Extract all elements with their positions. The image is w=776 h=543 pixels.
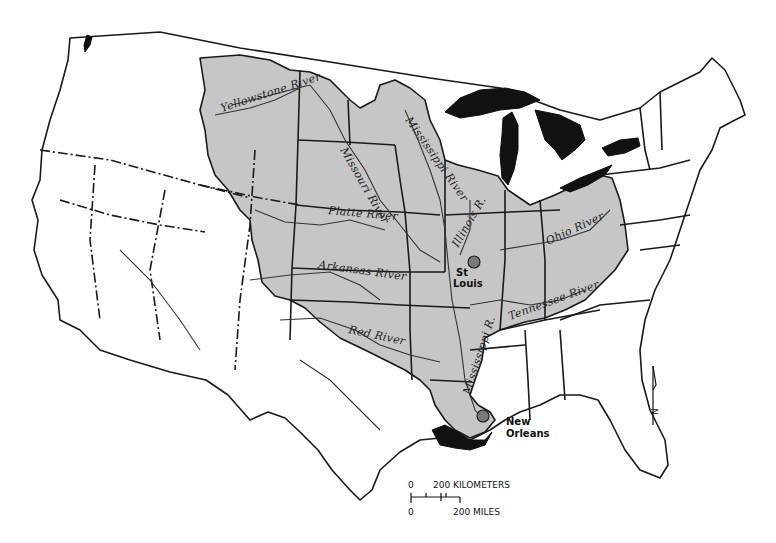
- city-marker-st-louis: [468, 256, 480, 268]
- scale-km-label: 200 KILOMETERS: [433, 480, 510, 490]
- city-marker-new-orleans: [477, 410, 489, 422]
- city-label-new-orleans-line1: New: [506, 416, 530, 427]
- city-label-new-orleans-line2: Orleans: [506, 428, 550, 439]
- city-label-st-louis-line1: St: [456, 267, 468, 278]
- scale-km-zero: 0: [408, 480, 414, 490]
- scale-bar: 0 200 KILOMETERS 0 200 MILES: [408, 480, 510, 517]
- city-label-st-louis-line2: Louis: [453, 278, 483, 289]
- mississippi-basin-map: Yellowstone River Missouri River Mississ…: [0, 0, 776, 543]
- scale-mi-zero: 0: [408, 507, 414, 517]
- north-arrow-label: N: [650, 408, 660, 415]
- scale-mi-label: 200 MILES: [453, 507, 500, 517]
